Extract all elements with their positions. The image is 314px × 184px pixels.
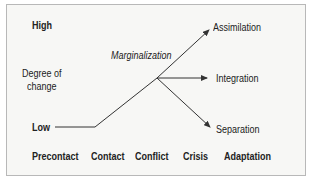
arrow-separation xyxy=(157,78,210,127)
path-line xyxy=(55,78,157,127)
stage-precontact: Precontact xyxy=(32,151,79,163)
stage-contact: Contact xyxy=(91,151,125,163)
y-low-label: Low xyxy=(32,122,50,134)
outcome-separation: Separation xyxy=(216,124,260,136)
marginalization-label: Marginalization xyxy=(111,50,172,62)
y-axis-label-line2: change xyxy=(27,81,57,93)
stage-crisis: Crisis xyxy=(183,151,208,163)
stage-conflict: Conflict xyxy=(135,151,168,163)
outcome-assimilation: Assimilation xyxy=(213,22,261,34)
stage-adaptation: Adaptation xyxy=(224,151,271,163)
y-high-label: High xyxy=(32,20,52,32)
y-axis-label-line1: Degree of xyxy=(22,68,62,80)
outcome-integration: Integration xyxy=(216,73,259,85)
